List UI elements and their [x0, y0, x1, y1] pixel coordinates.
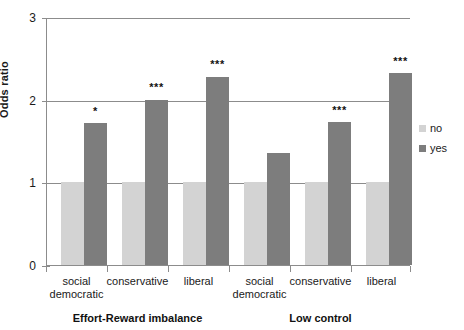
legend-item-no[interactable]: no: [419, 123, 447, 134]
legend-label-yes: yes: [430, 143, 447, 154]
x-category-line-1: conservative: [107, 275, 169, 288]
significance-marker-lc-conservative: ***: [332, 105, 346, 116]
x-category-line-1: social: [233, 275, 287, 288]
y-tick-label-1: 1: [18, 176, 36, 190]
bar-yes-erb-social-democratic[interactable]: [84, 123, 107, 265]
x-category-label-lc-social-democratic: social democratic: [233, 275, 287, 301]
x-category-label-erb-liberal: liberal: [184, 275, 213, 288]
bar-yes-lc-social-democratic[interactable]: [267, 153, 290, 265]
x-separator-4: [290, 266, 291, 272]
legend: no yes: [419, 123, 447, 163]
x-separator-1: [107, 266, 108, 272]
x-axis: social democratic conservative liberal s…: [46, 266, 410, 328]
legend-swatch-no-icon: [419, 125, 426, 132]
odds-ratio-bar-chart: * *** *** *** *** 3 2 1 0 Odds ratio soc…: [0, 0, 464, 330]
x-category-line-2: democratic: [233, 288, 287, 301]
x-category-line-1: liberal: [184, 275, 213, 288]
bar-yes-erb-liberal[interactable]: [206, 77, 229, 265]
significance-marker-erb-liberal: ***: [210, 59, 224, 70]
bar-yes-lc-liberal[interactable]: [389, 73, 412, 265]
x-category-label-lc-liberal: liberal: [367, 275, 396, 288]
x-category-line-2: democratic: [50, 288, 104, 301]
bar-yes-lc-conservative[interactable]: [328, 122, 351, 265]
y-axis-title: Odds ratio: [0, 61, 10, 118]
significance-marker-erb-conservative: ***: [149, 82, 163, 93]
x-category-line-1: conservative: [290, 275, 352, 288]
bar-no-erb-liberal[interactable]: [183, 182, 206, 265]
x-category-line-1: liberal: [367, 275, 396, 288]
bars-layer: * *** *** *** ***: [47, 18, 410, 265]
x-category-label-erb-conservative: conservative: [107, 275, 169, 288]
y-tick-2: [42, 101, 50, 102]
x-category-label-erb-social-democratic: social democratic: [50, 275, 104, 301]
x-group-label-low-control: Low control: [289, 312, 351, 324]
significance-marker-erb-social-democratic: *: [93, 106, 98, 117]
y-tick-label-3: 3: [18, 11, 36, 25]
x-group-label-effort-reward-imbalance: Effort-Reward imbalance: [73, 312, 203, 324]
x-separator-5: [351, 266, 352, 272]
x-category-line-1: social: [50, 275, 104, 288]
x-category-label-lc-conservative: conservative: [290, 275, 352, 288]
legend-swatch-yes-icon: [419, 145, 426, 152]
x-separator-3: [229, 266, 230, 272]
x-separator-0: [46, 266, 47, 272]
legend-label-no: no: [430, 123, 442, 134]
bar-yes-erb-conservative[interactable]: [145, 100, 168, 265]
y-tick-label-2: 2: [18, 94, 36, 108]
y-tick-label-0: 0: [18, 259, 36, 273]
x-separator-6: [410, 266, 411, 272]
x-separator-2: [168, 266, 169, 272]
legend-item-yes[interactable]: yes: [419, 143, 447, 154]
y-tick-1: [42, 183, 50, 184]
y-tick-3: [42, 18, 50, 19]
plot-area: * *** *** *** ***: [46, 18, 410, 266]
bar-no-lc-liberal[interactable]: [366, 182, 389, 265]
bar-no-erb-social-democratic[interactable]: [61, 182, 84, 265]
bar-no-erb-conservative[interactable]: [122, 182, 145, 265]
significance-marker-lc-liberal: ***: [393, 56, 407, 67]
bar-no-lc-conservative[interactable]: [305, 182, 328, 265]
bar-no-lc-social-democratic[interactable]: [244, 182, 267, 265]
